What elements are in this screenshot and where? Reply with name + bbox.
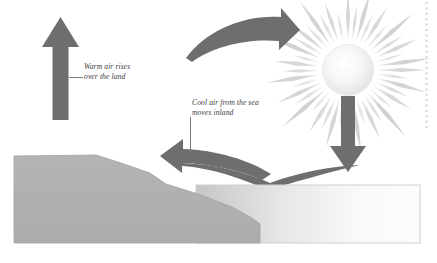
arrow-up-icon <box>42 17 79 120</box>
diagram-svg <box>0 0 437 263</box>
sun-core <box>323 45 374 96</box>
warm-air-label-line1: Warm air rises <box>84 62 130 72</box>
cool-air-label-line2: moves inland <box>192 108 259 118</box>
diagram-canvas: Warm air rises over the land Cool air fr… <box>0 0 437 263</box>
cool-air-label-line1: Cool air from the sea <box>192 98 259 108</box>
cool-air-label: Cool air from the sea moves inland <box>192 98 259 117</box>
warm-air-label: Warm air rises over the land <box>84 62 130 81</box>
curved-arrow-right-icon <box>186 8 300 62</box>
warm-air-label-line2: over the land <box>84 72 130 82</box>
